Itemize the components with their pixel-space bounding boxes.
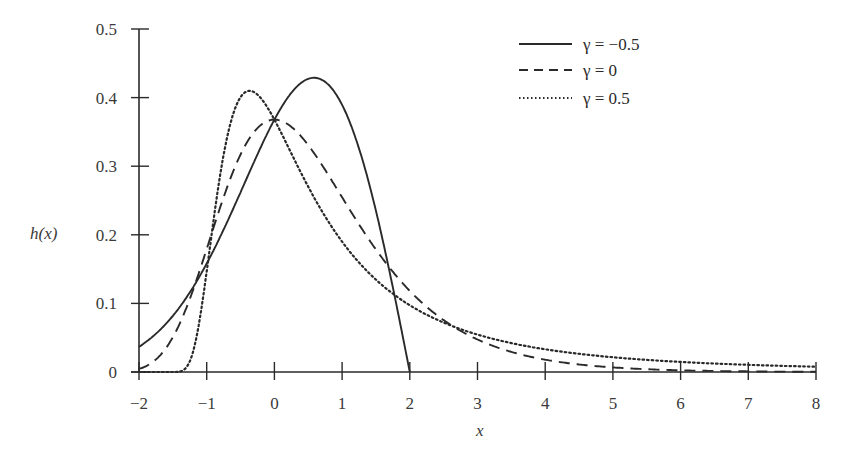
legend-label-gamma-pos: γ = 0.5 xyxy=(582,89,630,108)
y-tick-label: 0.5 xyxy=(96,20,117,39)
y-axis-title: h(x) xyxy=(30,224,58,243)
x-tick-label: 7 xyxy=(744,394,753,413)
series-line-dotted xyxy=(139,91,816,372)
y-ticks: 00.10.20.30.40.5 xyxy=(96,20,149,382)
chart: −2−1012345678 00.10.20.30.40.5 h(x) x γ … xyxy=(0,0,850,471)
y-tick-label: 0.4 xyxy=(96,89,118,108)
x-tick-label: 5 xyxy=(609,394,618,413)
x-tick-label: 2 xyxy=(406,394,415,413)
series-line-dashed xyxy=(139,120,816,372)
x-tick-label: 0 xyxy=(270,394,279,413)
legend: γ = −0.5 γ = 0 γ = 0.5 xyxy=(519,35,639,108)
y-tick-label: 0.2 xyxy=(96,226,117,245)
legend-label-gamma-neg: γ = −0.5 xyxy=(582,35,639,54)
y-tick-label: 0.3 xyxy=(96,157,117,176)
x-tick-label: −1 xyxy=(198,394,216,413)
x-tick-label: −2 xyxy=(130,394,148,413)
x-tick-label: 3 xyxy=(473,394,482,413)
y-tick-label: 0.1 xyxy=(96,294,117,313)
axes xyxy=(131,29,816,372)
curves xyxy=(139,78,816,372)
legend-label-gamma-zero: γ = 0 xyxy=(582,61,617,80)
x-tick-label: 1 xyxy=(338,394,347,413)
x-ticks: −2−1012345678 xyxy=(130,362,820,413)
x-tick-label: 8 xyxy=(812,394,821,413)
series-line-solid xyxy=(139,78,410,372)
y-tick-label: 0 xyxy=(109,363,118,382)
x-axis-title: x xyxy=(475,421,484,440)
x-tick-label: 4 xyxy=(541,394,550,413)
x-tick-label: 6 xyxy=(676,394,685,413)
